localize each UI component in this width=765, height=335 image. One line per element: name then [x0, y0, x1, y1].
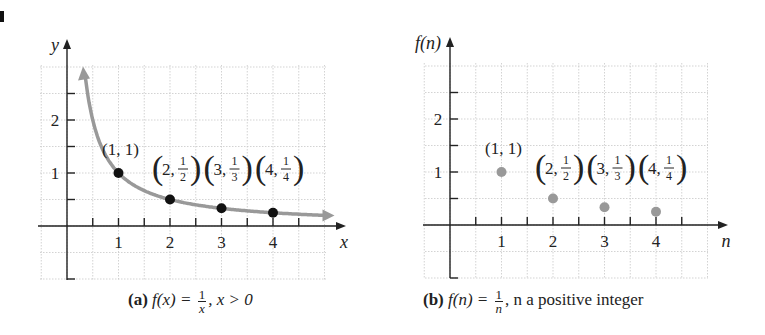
paren-right: ) [676, 148, 687, 186]
point-label: (3,13) [204, 149, 253, 187]
fraction-denominator: 2 [563, 169, 569, 183]
data-point [651, 207, 661, 217]
fraction-denominator: 2 [180, 170, 186, 184]
point-label-x: 3, [597, 159, 610, 178]
point-label: (2,12) [152, 149, 201, 187]
fraction-numerator: 1 [283, 154, 289, 168]
x-tick-label: 3 [600, 232, 609, 251]
chart-canvas: 123412xy(1, 1)(2,12)(3,13)(4,14)123412nf… [0, 0, 765, 335]
y-tick-label: 1 [51, 164, 60, 183]
fraction-denominator: 3 [615, 169, 621, 183]
point-label-text: (1, 1) [485, 139, 522, 158]
point-label-text: (1, 1) [102, 140, 139, 159]
x-tick-label: 4 [652, 232, 661, 251]
caption-b-fraction: 1n [495, 288, 504, 315]
fraction-numerator: 1 [232, 154, 238, 168]
x-tick-label: 3 [217, 233, 226, 252]
caption-a-fraction: 1x [198, 288, 207, 315]
y-axis-label: y [49, 35, 59, 55]
caption-a: (a) f(x) = 1x, x > 0 [128, 288, 253, 315]
point-label-x: 2, [545, 159, 558, 178]
point-label-x: 4, [265, 160, 278, 179]
curve-arrow-top-icon [78, 67, 90, 81]
paren-right: ) [293, 149, 304, 187]
fraction-numerator: 1 [563, 153, 569, 167]
fraction-denominator: 3 [232, 170, 238, 184]
fraction-numerator: 1 [180, 154, 186, 168]
caption-a-condition: , x > 0 [208, 290, 253, 309]
panel-b: 123412nf(n)(1, 1)(2,12)(3,13)(4,14) [415, 33, 731, 278]
point-label-x: 2, [162, 160, 175, 179]
paren-right: ) [242, 149, 253, 187]
data-point [217, 203, 227, 213]
caption-a-function: f(x) = [152, 290, 191, 309]
caption-b: (b) f(n) = 1n, n a positive integer [423, 288, 643, 315]
fraction-denominator: 4 [283, 170, 289, 184]
paren-right: ) [625, 148, 636, 186]
y-tick-label: 2 [434, 110, 443, 129]
point-label: (1, 1) [485, 139, 522, 158]
x-tick-label: 2 [166, 233, 175, 252]
data-point [548, 194, 558, 204]
y-axis-arrow-icon [63, 39, 71, 49]
caption-b-label: (b) [423, 290, 444, 309]
data-point [165, 195, 175, 205]
point-label: (2,12) [535, 148, 584, 186]
curve-arrow-right-icon [323, 209, 335, 221]
point-label: (4,14) [638, 148, 687, 186]
y-tick-label: 1 [434, 163, 443, 182]
x-tick-label: 1 [114, 233, 123, 252]
x-tick-label: 1 [497, 232, 506, 251]
point-label-x: 3, [214, 160, 227, 179]
x-tick-label: 2 [549, 232, 558, 251]
paren-right: ) [573, 148, 584, 186]
x-axis-arrow-icon [336, 222, 346, 230]
caption-b-function: f(n) = [448, 290, 488, 309]
point-label: (3,13) [587, 148, 636, 186]
data-point [268, 208, 278, 218]
paren-right: ) [190, 149, 201, 187]
y-tick-label: 2 [51, 111, 60, 130]
x-axis-label: n [722, 231, 731, 251]
fraction-numerator: 1 [615, 153, 621, 167]
caption-a-label: (a) [128, 290, 148, 309]
data-point [497, 167, 507, 177]
fraction-denominator: 4 [666, 169, 672, 183]
point-label: (1, 1) [102, 140, 139, 159]
point-label: (4,14) [255, 149, 304, 187]
fraction-numerator: 1 [666, 153, 672, 167]
y-axis-arrow-icon [446, 37, 454, 47]
panel-a: 123412xy(1, 1)(2,12)(3,13)(4,14) [38, 35, 348, 280]
data-point [600, 202, 610, 212]
x-tick-label: 4 [269, 233, 278, 252]
point-label-x: 4, [648, 159, 661, 178]
x-axis-label: x [339, 232, 348, 252]
y-axis-label: f(n) [415, 33, 441, 54]
data-point [114, 168, 124, 178]
x-axis-arrow-icon [718, 221, 728, 229]
caption-b-condition: , n a positive integer [505, 290, 643, 309]
